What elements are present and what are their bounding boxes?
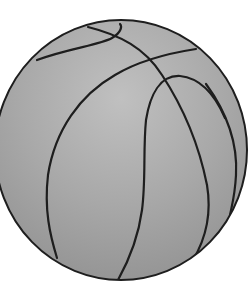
basketball-illustration [0, 0, 251, 291]
basketball-icon [0, 0, 251, 291]
